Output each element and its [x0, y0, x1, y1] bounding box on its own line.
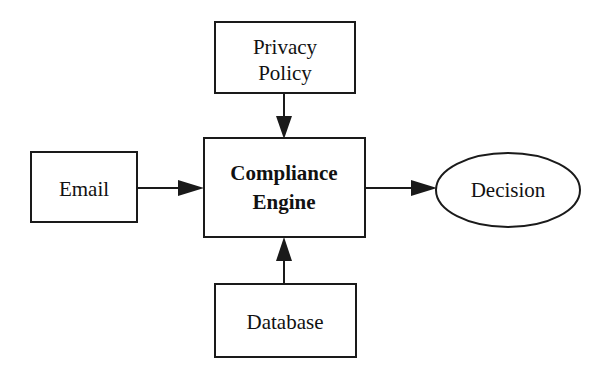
arrow-head-up-icon — [276, 237, 292, 261]
edge-database-to-compliance-engine — [276, 237, 292, 284]
node-decision[interactable]: Decision — [436, 153, 580, 227]
decision-label: Decision — [471, 178, 546, 202]
compliance-engine-label-line1: Compliance — [230, 161, 337, 185]
node-privacy-policy[interactable]: Privacy Policy — [215, 22, 355, 93]
node-compliance-engine[interactable]: Compliance Engine — [204, 138, 365, 237]
diagram-canvas: Privacy Policy Email Compliance Engine D… — [0, 0, 608, 374]
arrow-head-right-decision-icon — [411, 180, 437, 196]
edge-email-to-compliance-engine — [137, 180, 204, 196]
edge-compliance-engine-to-decision — [365, 180, 437, 196]
diagram-svg: Privacy Policy Email Compliance Engine D… — [0, 0, 608, 374]
compliance-engine-label-line2: Engine — [252, 190, 315, 214]
privacy-policy-label-line2: Policy — [258, 61, 312, 85]
arrow-head-right-icon — [178, 180, 204, 196]
node-database[interactable]: Database — [215, 284, 356, 357]
email-label: Email — [59, 177, 109, 201]
privacy-policy-label-line1: Privacy — [253, 35, 318, 59]
edge-privacy-policy-to-compliance-engine — [276, 93, 292, 139]
node-email[interactable]: Email — [31, 152, 137, 222]
database-label: Database — [247, 310, 324, 334]
compliance-engine-box[interactable] — [204, 138, 365, 237]
arrow-head-down-icon — [276, 116, 292, 139]
